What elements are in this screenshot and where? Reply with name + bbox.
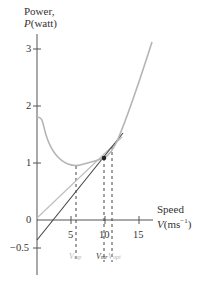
y-axis-label: Power, P(watt) xyxy=(24,5,57,29)
y-tick-label-3: 3 xyxy=(26,43,31,54)
y-tick-label-neg-half: −0.5 xyxy=(10,242,29,253)
x-tick-label-5: 5 xyxy=(68,229,73,240)
tangent-line-vopt xyxy=(37,137,122,218)
x-axis-label: Speed V(ms−1) xyxy=(157,203,191,230)
tangent-line-vmr xyxy=(37,133,123,240)
x-tick-label-10: 10 xyxy=(99,229,110,240)
vmr-point xyxy=(102,156,107,161)
y-tick-label-0: 0 xyxy=(26,214,31,225)
v-mp-label: Vmp xyxy=(69,252,81,262)
y-axis-label-line1: Power, xyxy=(24,5,57,17)
y-tick-label-2: 2 xyxy=(26,100,31,111)
x-axis-label-line2: V(ms−1) xyxy=(157,215,191,230)
x-tick-label-15: 15 xyxy=(133,229,144,240)
x-axis-label-line1: Speed xyxy=(157,203,191,215)
v-opt-label: Vopt xyxy=(108,252,121,262)
power-curve xyxy=(37,42,152,166)
v-mr-label: Vmr xyxy=(96,252,108,262)
y-axis-label-line2: P(watt) xyxy=(24,17,57,29)
y-tick-label-1: 1 xyxy=(26,157,31,168)
